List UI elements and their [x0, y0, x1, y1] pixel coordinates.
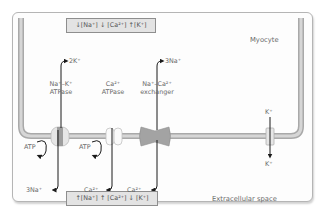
- ion-label-k-outside: K⁺: [265, 160, 273, 168]
- ion-label-3na-out: 3Na⁺: [26, 186, 42, 194]
- ion-label-ca-out-2: Ca²⁺: [127, 186, 141, 194]
- atp-label-2: ATP: [79, 143, 91, 151]
- ion-label-2k: 2K⁺: [69, 57, 81, 65]
- membrane-diagram: [0, 0, 323, 224]
- ca-atpase-label: Ca²⁺ ATPase: [96, 80, 130, 96]
- myocyte-label: Myocyte: [250, 36, 279, 44]
- ion-label-3na-in: 3Na⁺: [165, 57, 181, 65]
- extracellular-concentration-box: ↑[Na⁺] ↑ [Ca²⁺] ↓ [K⁺]: [66, 191, 158, 206]
- na-k-atpase-label: Na⁺–K⁺ ATPase: [42, 80, 80, 96]
- na-ca-exchanger-icon: [140, 127, 171, 146]
- ion-label-ca-out-1: Ca²⁺: [84, 186, 98, 194]
- extracellular-space-label: Extracellular space: [212, 195, 277, 203]
- na-ca-exchanger-label: Na⁺–Ca²⁺ exchanger: [136, 80, 178, 96]
- ca-atpase-icon: [106, 128, 122, 145]
- na-k-atpase-icon: [51, 127, 69, 146]
- ion-label-k-inside: K⁺: [265, 108, 273, 116]
- intracellular-concentration-box: ↓[Na⁺] ↓ [Ca²⁺] ↑[K⁺]: [66, 18, 156, 33]
- atp-label-1: ATP: [24, 143, 36, 151]
